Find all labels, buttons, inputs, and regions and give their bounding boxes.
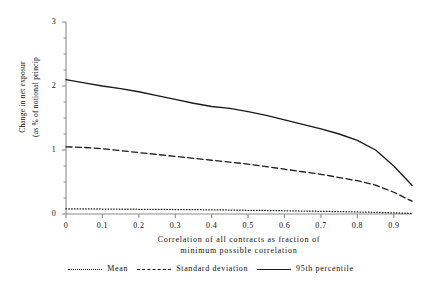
legend-swatch-dashed bbox=[137, 266, 171, 273]
series-line-mean bbox=[66, 209, 412, 213]
x-tick-label: 0.3 bbox=[162, 222, 188, 230]
series-line-95th-percentile bbox=[66, 80, 412, 186]
axis-lines bbox=[66, 22, 412, 214]
x-tick-label: 0.6 bbox=[272, 222, 298, 230]
data-series-group bbox=[66, 80, 412, 214]
x-tick-label: 0.8 bbox=[344, 222, 370, 230]
axis-ticks bbox=[62, 22, 394, 218]
x-tick-label: 0.2 bbox=[126, 222, 152, 230]
chart-legend: MeanStandard deviation95th percentile bbox=[40, 260, 382, 278]
y-tick-label: 1 bbox=[40, 146, 56, 154]
series-line-standard-deviation bbox=[66, 147, 412, 201]
legend-entry[interactable]: Mean bbox=[68, 265, 128, 273]
x-tick-label: 0 bbox=[53, 222, 79, 230]
legend-label: Standard deviation bbox=[176, 265, 248, 273]
legend-entry[interactable]: 95th percentile bbox=[257, 265, 354, 273]
x-tick-label: 0.4 bbox=[199, 222, 225, 230]
x-tick-label: 0.5 bbox=[235, 222, 261, 230]
y-tick-label: 2 bbox=[40, 82, 56, 90]
x-tick-label: 0.9 bbox=[381, 222, 407, 230]
chart-figure: Change in net exposur (as % of notional … bbox=[0, 0, 422, 284]
x-axis-title-line-2: minimum possible correlation bbox=[66, 245, 412, 256]
legend-entry[interactable]: Standard deviation bbox=[137, 265, 248, 273]
legend-swatch-solid bbox=[257, 266, 291, 273]
legend-swatch-dotted bbox=[68, 266, 102, 273]
x-tick-label: 0.7 bbox=[308, 222, 334, 230]
legend-label: 95th percentile bbox=[296, 265, 354, 273]
x-axis-title: Correlation of all contracts as fraction… bbox=[66, 234, 412, 256]
y-tick-label: 3 bbox=[40, 18, 56, 26]
legend-label: Mean bbox=[107, 265, 128, 273]
x-axis-title-line-1: Correlation of all contracts as fraction… bbox=[66, 234, 412, 245]
y-tick-label: 0 bbox=[40, 210, 56, 218]
x-tick-label: 0.1 bbox=[89, 222, 115, 230]
